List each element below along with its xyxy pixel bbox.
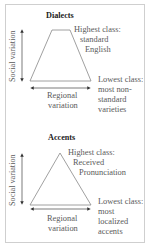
accents-x-axis-label-2: variation bbox=[48, 224, 78, 234]
dialects-bottom-label-1: Lowest class: bbox=[98, 75, 143, 85]
accents-top-label-3: Pronunciation bbox=[79, 168, 126, 178]
dialects-x-axis-label-2: variation bbox=[48, 101, 78, 111]
accents-title: Accents bbox=[48, 133, 75, 142]
dialects-x-axis-label-1: Regional bbox=[47, 91, 77, 101]
accents-bottom-label-2: most bbox=[98, 207, 114, 217]
dialects-top-label-2: standard bbox=[80, 35, 108, 45]
accents-bottom-label-4: accents bbox=[98, 227, 123, 237]
dialects-top-label-3: English bbox=[85, 45, 111, 55]
accents-top-label-1: Highest class: bbox=[68, 148, 115, 158]
accents-bottom-label-3: localized bbox=[98, 217, 128, 227]
accents-y-axis-label: Social variation bbox=[8, 154, 17, 206]
accents-x-axis-label-1: Regional bbox=[47, 214, 77, 224]
accents-bottom-label-1: Lowest class: bbox=[98, 197, 143, 207]
dialects-top-label-1: Highest class: bbox=[74, 25, 121, 35]
dialects-y-axis-label: Social variation bbox=[8, 30, 17, 82]
accents-top-label-2: Received bbox=[73, 158, 104, 168]
dialects-bottom-label-4: varieties bbox=[98, 105, 126, 115]
dialects-bottom-label-2: most non- bbox=[98, 85, 132, 95]
dialects-title: Dialects bbox=[46, 11, 74, 20]
diagram-graphics bbox=[0, 0, 154, 249]
dialects-bottom-label-3: standard bbox=[98, 95, 126, 105]
